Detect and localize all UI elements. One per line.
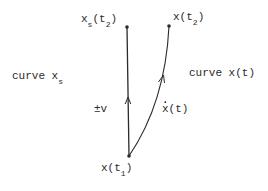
diagram-canvas: xs(t2) x(t2) x(t1) curve xs curve x(t) ±… (0, 0, 268, 191)
label-velocity-v: ±v (94, 103, 108, 115)
label-x-dot-t: x(t) (162, 103, 188, 115)
point-xs-t2 (125, 25, 129, 29)
diagram-svg: xs(t2) x(t2) x(t1) curve xs curve x(t) ±… (0, 0, 268, 191)
point-x-t2 (167, 24, 171, 28)
point-x-t1 (127, 154, 131, 158)
label-x-t2: x(t2) (173, 11, 204, 27)
curve-xs-line (127, 27, 129, 156)
label-curve-xs: curve xs (12, 70, 63, 86)
label-curve-xt: curve x(t) (189, 67, 255, 79)
label-x-t1: x(t1) (101, 162, 132, 178)
label-xs-t2: xs(t2) (81, 13, 117, 29)
curve-xt-line (129, 26, 169, 156)
dot-accent-icon (164, 101, 166, 103)
